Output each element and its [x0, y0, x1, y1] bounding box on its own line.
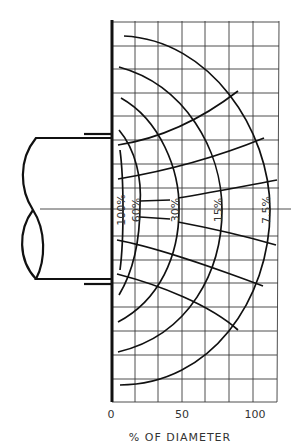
label-7-5: 7.5% [260, 196, 273, 224]
diagram-figure: 100% 60% 30% 15% 7.5% 0 50 100 % OF DIAM… [0, 0, 305, 448]
x-axis-label: % OF DIAMETER [129, 431, 231, 444]
label-100: 100% [115, 194, 128, 225]
label-30: 30% [169, 198, 182, 222]
tick-100: 100 [245, 408, 266, 421]
tick-50: 50 [175, 408, 189, 421]
label-15: 15% [212, 198, 225, 222]
label-60: 60% [130, 198, 143, 222]
tick-0: 0 [108, 408, 115, 421]
